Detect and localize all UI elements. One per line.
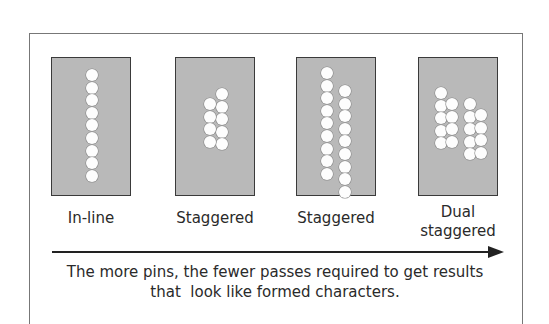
- print-pin: [475, 122, 487, 134]
- print-pin: [475, 134, 487, 146]
- print-pin: [435, 87, 447, 99]
- print-pin: [339, 123, 351, 135]
- print-pin: [446, 98, 458, 110]
- print-head-staggered: [175, 57, 255, 196]
- print-pin: [446, 123, 458, 135]
- print-pin: [321, 130, 333, 142]
- print-pin: [339, 173, 351, 185]
- print-pin: [86, 132, 98, 144]
- label-dual-staggered-line2: staggered: [398, 222, 518, 241]
- print-pin: [204, 111, 216, 123]
- print-pin: [321, 92, 333, 104]
- print-pin: [86, 145, 98, 157]
- print-pin: [464, 111, 476, 123]
- print-pin: [86, 157, 98, 169]
- print-pin: [321, 67, 333, 79]
- print-pin: [86, 119, 98, 131]
- print-pin: [204, 136, 216, 148]
- print-pin: [204, 98, 216, 110]
- print-pin: [86, 170, 98, 182]
- print-pin: [216, 88, 228, 100]
- print-pin: [339, 85, 351, 97]
- print-pin: [86, 107, 98, 119]
- print-head-staggered-double-column: [296, 57, 376, 196]
- print-pin: [464, 98, 476, 110]
- print-pin: [216, 113, 228, 125]
- print-pin: [216, 101, 228, 113]
- caption-line-2: that look like formed characters.: [40, 282, 510, 302]
- print-pin: [339, 148, 351, 160]
- print-pin: [321, 105, 333, 117]
- print-pin: [204, 123, 216, 135]
- print-pin: [321, 168, 333, 180]
- print-pin: [339, 110, 351, 122]
- print-pin: [446, 136, 458, 148]
- print-pin: [321, 117, 333, 129]
- print-pin: [339, 98, 351, 110]
- print-pin: [216, 138, 228, 150]
- caption: The more pins, the fewer passes required…: [40, 262, 510, 302]
- caption-line-1: The more pins, the fewer passes required…: [40, 262, 510, 282]
- label-dual-staggered-line1: Dual: [398, 203, 518, 222]
- print-pin: [86, 94, 98, 106]
- print-pin: [446, 111, 458, 123]
- print-pin: [475, 147, 487, 159]
- arrow-right-icon: [488, 246, 504, 258]
- print-pin: [339, 186, 351, 198]
- print-head-inline: [51, 57, 131, 196]
- print-pin: [86, 69, 98, 81]
- label-staggered-2: Staggered: [276, 209, 396, 228]
- label-inline: In-line: [31, 209, 151, 228]
- label-staggered: Staggered: [155, 209, 275, 228]
- progression-arrow-line: [52, 251, 492, 253]
- print-pin: [321, 143, 333, 155]
- print-pin: [321, 80, 333, 92]
- print-head-dual-staggered: [418, 57, 498, 196]
- print-pin: [475, 109, 487, 121]
- print-pin: [339, 135, 351, 147]
- print-pin: [435, 100, 447, 112]
- print-pin: [216, 126, 228, 138]
- print-pin: [321, 155, 333, 167]
- print-pin: [86, 82, 98, 94]
- print-pin: [339, 161, 351, 173]
